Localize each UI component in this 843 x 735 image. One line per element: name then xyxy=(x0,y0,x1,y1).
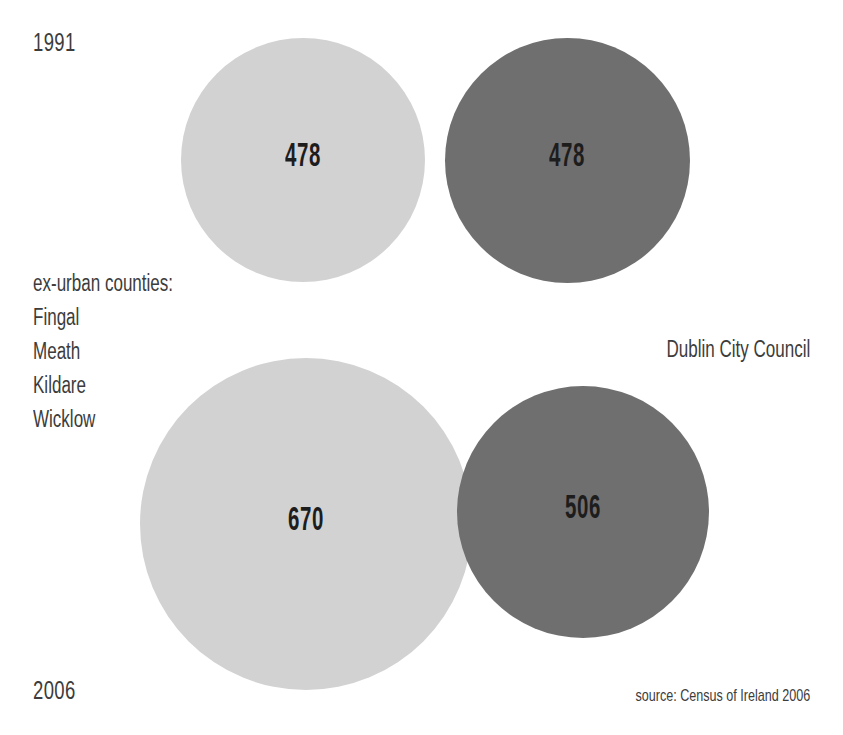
bubble-value-exurban-1991: 478 xyxy=(181,136,425,174)
bubble-value-dublin-1991: 478 xyxy=(445,136,690,174)
bubble-exurban-1991: 478 xyxy=(181,38,425,282)
bubble-value-exurban-2006: 670 xyxy=(140,500,472,538)
exurban-county-wicklow: Wicklow xyxy=(33,402,173,436)
source-label-wrap: source: Census of Ireland 2006 xyxy=(0,686,810,706)
dublin-label-wrap: Dublin City Council xyxy=(0,336,810,363)
bubble-exurban-2006: 670 xyxy=(140,358,472,690)
exurban-legend-title: ex-urban counties: xyxy=(33,266,173,300)
bubble-dublin-1991: 478 xyxy=(445,38,690,283)
bubble-value-dublin-2006: 506 xyxy=(457,488,709,526)
year-label-top: 1991 xyxy=(33,28,76,57)
exurban-county-kildare: Kildare xyxy=(33,368,173,402)
dublin-city-council-label: Dublin City Council xyxy=(666,336,810,363)
figure-canvas: population comparison, ex-urban counties… xyxy=(0,0,843,735)
source-credit: source: Census of Ireland 2006 xyxy=(635,686,810,706)
exurban-county-fingal: Fingal xyxy=(33,300,173,334)
bubble-dublin-2006: 506 xyxy=(457,386,709,638)
